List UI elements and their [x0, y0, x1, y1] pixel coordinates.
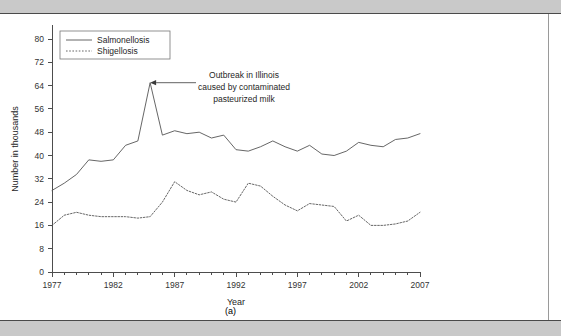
line-chart: 08162432404856647280 1977198219871992199… — [0, 14, 461, 320]
series-line-shigellosis — [52, 182, 420, 226]
x-tick-label: 1977 — [43, 280, 62, 290]
x-tick-label: 2007 — [411, 280, 430, 290]
y-tick-label: 16 — [35, 220, 45, 230]
y-tick-label: 56 — [35, 104, 45, 114]
x-tick-label: 1982 — [104, 280, 123, 290]
figure-container: 08162432404856647280 1977198219871992199… — [0, 14, 461, 320]
x-axis: 1977198219871992199720022007 — [43, 272, 430, 290]
top-gray-band — [0, 0, 561, 14]
x-tick-label: 1992 — [227, 280, 246, 290]
bottom-gray-band — [0, 320, 561, 336]
y-axis-title: Number in thousands — [10, 106, 20, 192]
annotation-line-3: pasteurized milk — [213, 94, 275, 104]
outbreak-annotation: Outbreak in Illinois caused by contamina… — [150, 70, 290, 104]
figure-caption: (a) — [225, 306, 236, 316]
y-tick-label: 32 — [35, 174, 45, 184]
y-tick-label: 48 — [35, 127, 45, 137]
legend: Salmonellosis Shigellosis — [60, 31, 170, 59]
y-tick-label: 24 — [35, 197, 45, 207]
x-tick-label: 2002 — [349, 280, 368, 290]
x-tick-label: 1997 — [288, 280, 307, 290]
legend-label-salmonellosis: Salmonellosis — [97, 35, 149, 45]
y-tick-label: 72 — [35, 57, 45, 67]
y-tick-label: 8 — [39, 244, 44, 254]
annotation-line-2: caused by contaminated — [198, 82, 290, 92]
y-tick-label: 64 — [35, 81, 45, 91]
annotation-arrowhead — [150, 80, 156, 85]
y-tick-label: 0 — [39, 267, 44, 277]
plot-series — [52, 83, 420, 226]
y-tick-group: 08162432404856647280 — [35, 34, 52, 277]
y-tick-label: 40 — [35, 151, 45, 161]
x-tick-label: 1987 — [165, 280, 184, 290]
y-tick-label: 80 — [35, 34, 45, 44]
y-axis: 08162432404856647280 — [35, 25, 52, 277]
figure-caption-wrap: (a) — [0, 300, 461, 318]
legend-label-shigellosis: Shigellosis — [97, 46, 138, 56]
annotation-line-1: Outbreak in Illinois — [209, 70, 279, 80]
